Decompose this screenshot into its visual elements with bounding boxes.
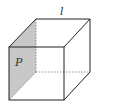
edge-top-right xyxy=(64,19,90,47)
cube-diagram: l P xyxy=(0,0,123,108)
plane-label-p: P xyxy=(14,56,23,69)
edge-bottom-right xyxy=(64,72,90,100)
plane-p-face xyxy=(9,19,36,100)
line-label-l: l xyxy=(60,5,64,18)
